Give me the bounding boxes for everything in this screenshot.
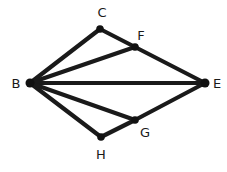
edge-g-e: [135, 83, 205, 120]
graph-diagram: BCFEGH: [0, 0, 227, 172]
edge-f-e: [135, 47, 205, 83]
node-b: [26, 79, 35, 88]
edge-h-g: [101, 120, 135, 137]
node-e: [201, 79, 210, 88]
node-label-g: G: [140, 125, 150, 140]
node-label-b: B: [12, 76, 21, 91]
edge-b-c: [30, 29, 100, 83]
edge-b-f: [30, 47, 135, 83]
edge-b-h: [30, 83, 101, 137]
node-h: [97, 133, 105, 141]
node-label-e: E: [213, 76, 221, 91]
edge-b-g: [30, 83, 135, 120]
node-label-f: F: [137, 28, 144, 43]
edge-c-f: [100, 29, 135, 47]
node-g: [131, 116, 139, 124]
edges-group: [30, 29, 205, 137]
node-c: [96, 25, 104, 33]
node-label-c: C: [97, 5, 106, 20]
node-label-h: H: [96, 147, 106, 162]
node-f: [131, 43, 139, 51]
